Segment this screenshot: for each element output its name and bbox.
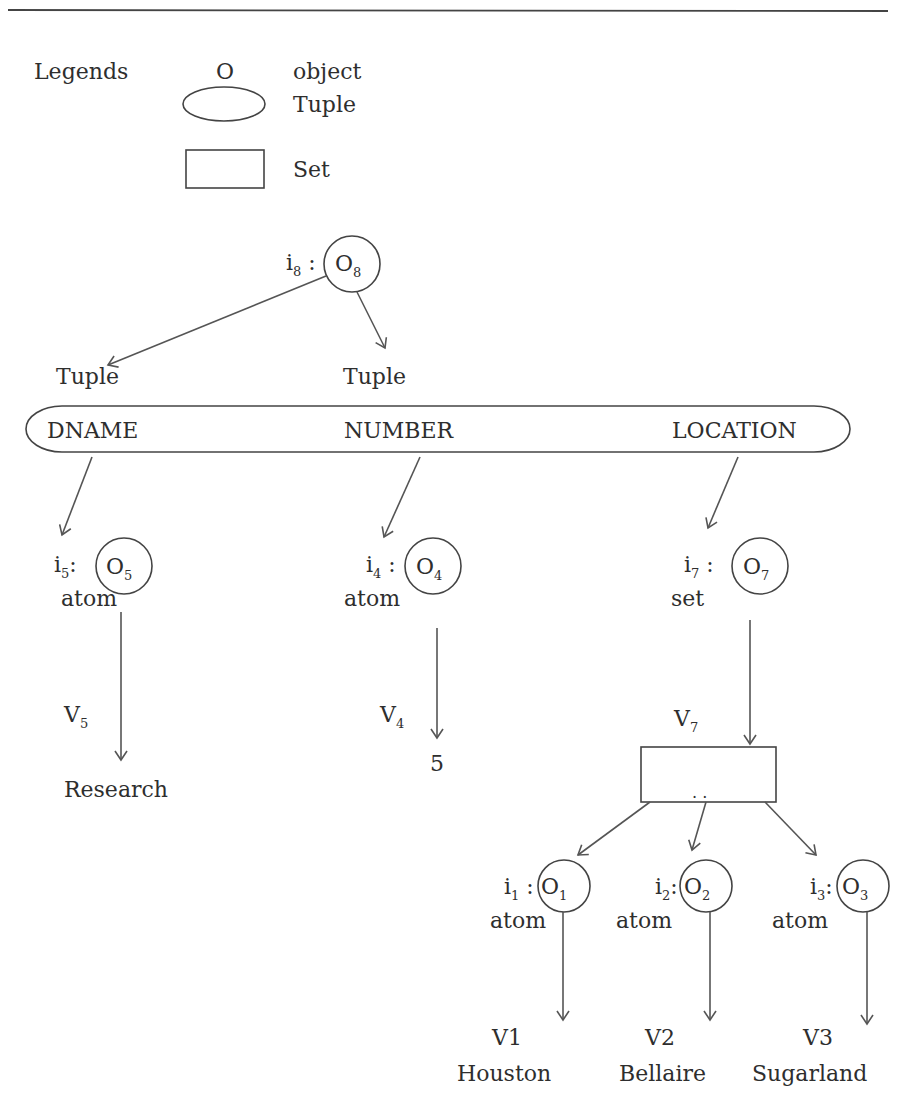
legend-tuple-label: Tuple bbox=[293, 92, 356, 117]
object-node-o4: i4 : O4 atom bbox=[344, 538, 461, 611]
set-box bbox=[641, 747, 776, 802]
object-node-o7: i7 : O7 set bbox=[671, 538, 788, 611]
set-ellipsis: . . bbox=[692, 783, 707, 802]
svg-text:i4 :: i4 : bbox=[366, 552, 396, 581]
svg-text:O3: O3 bbox=[842, 874, 868, 903]
root-object-node: i8 : O8 bbox=[286, 236, 380, 292]
arrow-number bbox=[384, 457, 420, 537]
legend-tuple-ellipse-icon bbox=[183, 87, 265, 121]
arrow-root-to-tuple-1 bbox=[108, 276, 326, 365]
object-node-o2: i2: O2 atom bbox=[616, 860, 732, 933]
arrow-set-member-2 bbox=[692, 802, 706, 850]
attr-number: NUMBER bbox=[344, 418, 455, 443]
tuple-label-2: Tuple bbox=[343, 364, 406, 389]
arrow-set-member-3 bbox=[765, 802, 816, 855]
value-research: Research bbox=[64, 777, 168, 802]
arrow-dname bbox=[62, 457, 92, 535]
attr-location: LOCATION bbox=[672, 418, 797, 443]
value-5: 5 bbox=[430, 751, 444, 776]
header-rule bbox=[8, 10, 888, 11]
object-node-o5: i5: O5 atom bbox=[54, 538, 152, 611]
object-node-o1: i1 : O1 atom bbox=[490, 860, 590, 933]
svg-text:O8: O8 bbox=[335, 251, 361, 280]
value-label-v2: V2 bbox=[644, 1025, 675, 1050]
value-label-v3: V3 bbox=[802, 1025, 833, 1050]
node-type: atom bbox=[772, 908, 828, 933]
legend-object-label: object bbox=[293, 59, 361, 84]
value-label-v1: V1 bbox=[491, 1025, 522, 1050]
attr-dname: DNAME bbox=[47, 418, 138, 443]
arrow-set-member-1 bbox=[578, 802, 650, 855]
node-type: set bbox=[671, 586, 704, 611]
svg-text:O4: O4 bbox=[416, 554, 442, 583]
tuple-label-1: Tuple bbox=[56, 364, 119, 389]
node-type: atom bbox=[490, 908, 546, 933]
svg-text:i7 :: i7 : bbox=[684, 552, 714, 581]
object-graph-diagram: Legends O object Tuple Set i8 : O8 Tuple… bbox=[0, 0, 909, 1110]
legend: Legends O object Tuple Set bbox=[34, 59, 361, 188]
object-node-o3: i3: O3 atom bbox=[772, 860, 889, 933]
svg-text:O2: O2 bbox=[684, 874, 710, 903]
node-type: atom bbox=[344, 586, 400, 611]
svg-text:O7: O7 bbox=[743, 554, 769, 583]
svg-text:V4: V4 bbox=[379, 702, 404, 731]
svg-text:i2:: i2: bbox=[655, 874, 678, 903]
svg-text:V7: V7 bbox=[673, 706, 698, 735]
root-id: i8 : bbox=[286, 250, 316, 279]
node-type: atom bbox=[616, 908, 672, 933]
value-houston: Houston bbox=[457, 1061, 551, 1086]
svg-text:i5:: i5: bbox=[54, 552, 77, 581]
arrow-root-to-tuple-2 bbox=[357, 292, 385, 348]
svg-text:O5: O5 bbox=[106, 554, 132, 583]
node-type: atom bbox=[61, 586, 117, 611]
legend-set-label: Set bbox=[293, 157, 330, 182]
svg-text:O1: O1 bbox=[541, 874, 567, 903]
value-sugarland: Sugarland bbox=[752, 1061, 867, 1086]
svg-text:i1 :: i1 : bbox=[504, 874, 534, 903]
legend-title: Legends bbox=[34, 59, 128, 84]
legend-set-rect-icon bbox=[186, 150, 264, 188]
arrow-location bbox=[708, 457, 738, 528]
value-bellaire: Bellaire bbox=[619, 1061, 706, 1086]
svg-text:V5: V5 bbox=[63, 702, 88, 731]
legend-object-symbol: O bbox=[216, 59, 234, 84]
svg-text:i3:: i3: bbox=[810, 874, 833, 903]
